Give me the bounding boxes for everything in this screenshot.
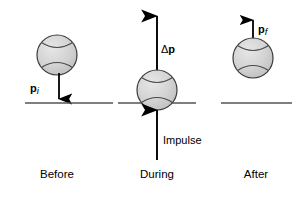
ball-after xyxy=(233,38,273,78)
ball-during xyxy=(137,70,177,110)
caption-after: After xyxy=(244,168,268,180)
ball-before xyxy=(37,35,77,75)
ball-body-icon xyxy=(37,35,77,75)
panel-during: Δp Impulse During xyxy=(118,16,202,180)
momentum-initial-label: pi xyxy=(30,82,40,96)
panel-after: pf After xyxy=(221,20,292,180)
impulse-momentum-diagram: pi Before Δp Impulse During pf xyxy=(0,0,307,197)
impulse-label: Impulse xyxy=(163,134,202,146)
ball-body-icon xyxy=(137,70,177,110)
caption-during: During xyxy=(140,168,174,180)
caption-before: Before xyxy=(40,168,74,180)
figure-canvas: pi Before Δp Impulse During pf xyxy=(0,0,307,197)
panel-before: pi Before xyxy=(25,35,113,180)
ball-body-icon xyxy=(233,38,273,78)
delta-p-label: Δp xyxy=(161,43,175,55)
momentum-final-label: pf xyxy=(258,23,269,37)
